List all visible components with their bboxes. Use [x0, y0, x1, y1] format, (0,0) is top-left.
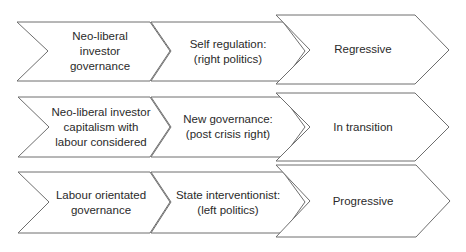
governance-label-row3: Labour orientated governance — [48, 172, 154, 233]
outcome-label-row2: In transition — [310, 93, 416, 161]
governance-label-row2: Neo-liberal investor capitalism with lab… — [46, 97, 156, 157]
politics-label-row3: State interventionist: (left politics) — [168, 172, 288, 233]
outcome-label-row1: Regressive — [310, 15, 416, 84]
chevron-process-diagram: Neo-liberal investor governance Self reg… — [0, 0, 466, 252]
politics-label-row1: Self regulation: (right politics) — [171, 22, 285, 81]
politics-label-row2: New governance: (post crisis right) — [171, 97, 285, 157]
outcome-label-row3: Progressive — [310, 165, 416, 237]
governance-label-row1: Neo-liberal investor governance — [48, 22, 152, 81]
